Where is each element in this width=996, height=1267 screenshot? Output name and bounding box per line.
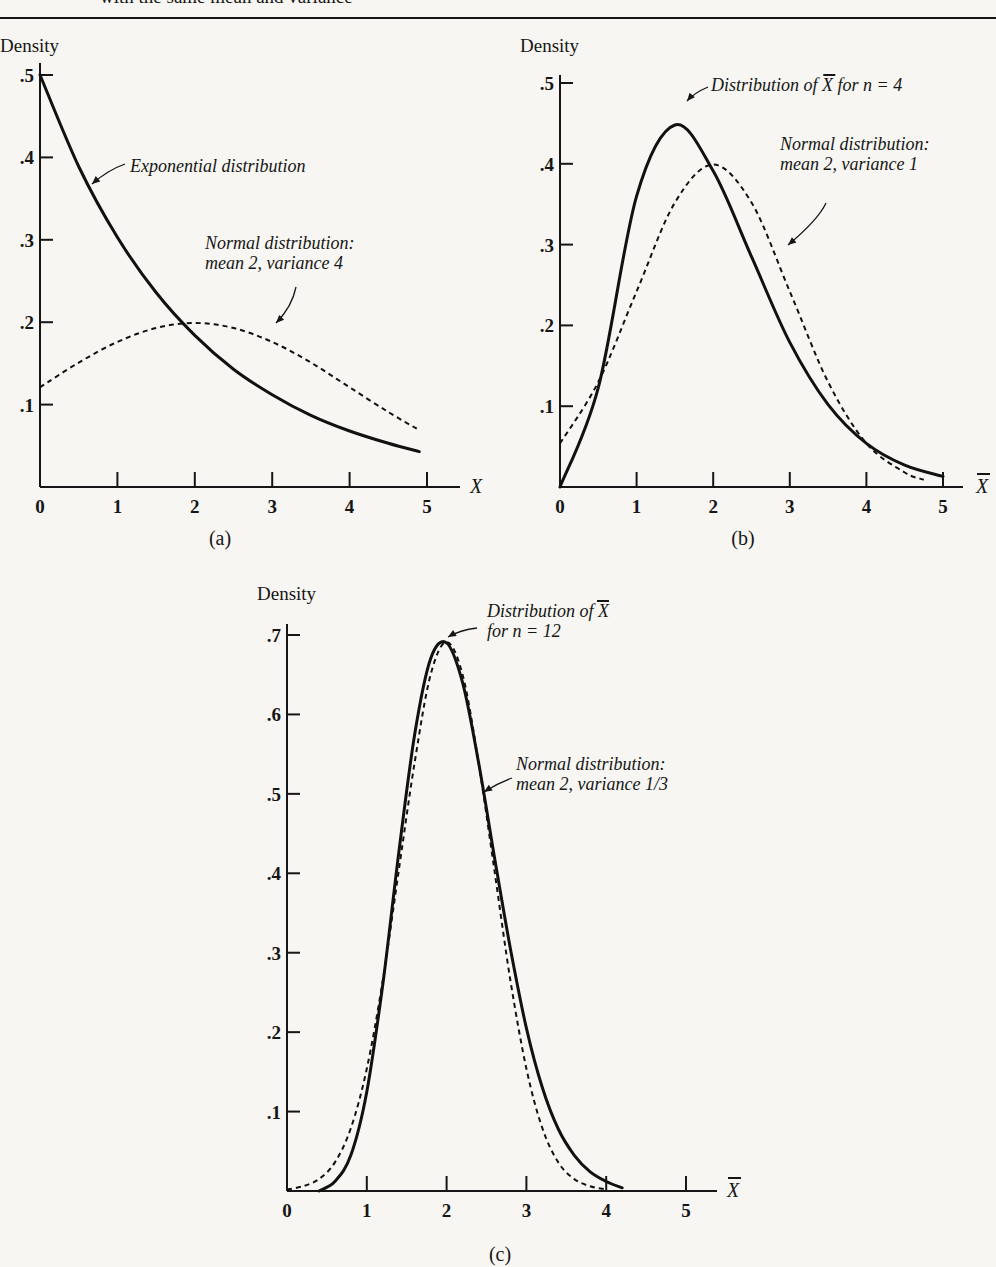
annotation-text: Normal distribution: bbox=[204, 233, 355, 253]
x-tick-label: 1 bbox=[113, 496, 123, 517]
x-tick-label: 0 bbox=[35, 496, 45, 517]
x-tick-label: 4 bbox=[862, 496, 872, 517]
header-rule bbox=[0, 17, 996, 19]
y-tick-label: .4 bbox=[540, 154, 555, 175]
series-line-normal bbox=[560, 165, 924, 480]
annotation-text: Distribution of X bbox=[486, 601, 610, 621]
y-tick-label: .1 bbox=[20, 395, 34, 416]
figure-caption: with the same mean and variance bbox=[100, 0, 353, 8]
x-tick-label: 1 bbox=[362, 1200, 372, 1221]
x-axis-label: X bbox=[975, 475, 989, 497]
y-tick-label: .5 bbox=[540, 73, 554, 94]
x-tick-label: 3 bbox=[522, 1200, 532, 1221]
y-axis-label: Density bbox=[257, 583, 317, 604]
annotation-text: for n = 12 bbox=[487, 621, 561, 641]
y-axis-label: Density bbox=[520, 35, 580, 56]
x-tick-label: 5 bbox=[422, 496, 432, 517]
panel-label: (b) bbox=[731, 527, 754, 550]
x-tick-label: 2 bbox=[708, 496, 718, 517]
y-tick-label: .3 bbox=[540, 235, 554, 256]
y-tick-label: .1 bbox=[267, 1102, 281, 1123]
x-tick-label: 4 bbox=[345, 496, 355, 517]
x-tick-label: 5 bbox=[681, 1200, 691, 1221]
annotation-text: Normal distribution: bbox=[779, 134, 930, 154]
series-line-normal bbox=[287, 642, 606, 1189]
x-tick-label: 2 bbox=[442, 1200, 452, 1221]
y-tick-label: .2 bbox=[540, 315, 554, 336]
annotation-text: mean 2, variance 1/3 bbox=[516, 774, 668, 794]
y-tick-label: .4 bbox=[267, 863, 282, 884]
x-tick-label: 0 bbox=[555, 496, 565, 517]
panel-label: (a) bbox=[209, 527, 231, 550]
annotation-text: mean 2, variance 4 bbox=[205, 253, 343, 273]
x-tick-label: 3 bbox=[785, 496, 795, 517]
y-tick-label: .2 bbox=[20, 312, 34, 333]
panel-label: (c) bbox=[489, 1243, 511, 1266]
x-tick-label: 2 bbox=[190, 496, 200, 517]
chart-panel-c: .1.2.3.4.5.6.7012345DensityX(c)Distribut… bbox=[240, 580, 780, 1267]
annotation-text: mean 2, variance 1 bbox=[780, 154, 918, 174]
y-tick-label: .5 bbox=[267, 784, 281, 805]
y-tick-label: .6 bbox=[267, 704, 281, 725]
annotation-text: Normal distribution: bbox=[515, 754, 666, 774]
annotation-arrowhead bbox=[92, 176, 100, 184]
series-line-sample bbox=[319, 642, 622, 1191]
x-tick-label: 1 bbox=[632, 496, 642, 517]
y-tick-label: .5 bbox=[20, 65, 34, 86]
y-axis-label: Density bbox=[0, 35, 60, 56]
y-tick-label: .3 bbox=[20, 230, 34, 251]
chart-panel-a: .1.2.3.4.5012345DensityX(a)Exponential d… bbox=[0, 35, 500, 555]
chart-panel-b: .1.2.3.4.5012345DensityX(b)Distribution … bbox=[498, 35, 996, 555]
annotation-arrow bbox=[788, 203, 826, 245]
y-tick-label: .4 bbox=[20, 147, 35, 168]
x-tick-label: 0 bbox=[282, 1200, 292, 1221]
series-line-normal bbox=[40, 323, 419, 430]
x-tick-label: 5 bbox=[938, 496, 948, 517]
y-tick-label: .2 bbox=[267, 1022, 281, 1043]
y-tick-label: .3 bbox=[267, 943, 281, 964]
x-tick-label: 3 bbox=[267, 496, 277, 517]
x-axis-label: X bbox=[469, 475, 483, 497]
annotation-arrowhead bbox=[687, 93, 695, 101]
annotation-arrowhead bbox=[484, 785, 493, 792]
annotation-text: Distribution of X for n = 4 bbox=[710, 75, 902, 95]
series-line-sample bbox=[560, 125, 943, 487]
annotation-text: Exponential distribution bbox=[129, 156, 306, 176]
y-tick-label: .1 bbox=[540, 396, 554, 417]
x-axis-label: X bbox=[726, 1179, 740, 1201]
y-tick-label: .7 bbox=[267, 625, 282, 646]
x-tick-label: 4 bbox=[601, 1200, 611, 1221]
